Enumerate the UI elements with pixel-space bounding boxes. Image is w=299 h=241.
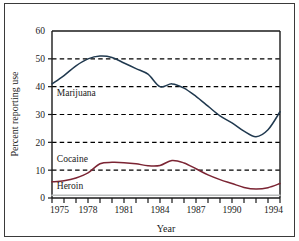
y-tick-label-20: 20 (36, 138, 46, 148)
series-inline-labels: MarijuanaCocaineHeroin (57, 88, 97, 191)
series-label-heroin: Heroin (57, 181, 84, 191)
x-axis-title: Year (157, 223, 176, 234)
series-label-cocaine: Cocaine (57, 154, 88, 164)
x-tick-label-1987: 1987 (187, 205, 206, 215)
x-tick-label-1978: 1978 (79, 205, 98, 215)
series-label-marijuana: Marijuana (57, 88, 97, 98)
y-tick-label-50: 50 (36, 54, 46, 64)
figure-container: 0102030405060 19751978198119841987199019… (0, 0, 299, 241)
x-axis-tick-labels: 1975197819811984198719901994 (50, 205, 283, 215)
y-tick-label-40: 40 (36, 82, 46, 92)
y-tick-label-0: 0 (40, 193, 45, 203)
y-tick-label-30: 30 (36, 110, 46, 120)
series-line-cocaine (52, 160, 280, 189)
x-tick-label-1984: 1984 (151, 205, 170, 215)
data-series-group (52, 56, 280, 195)
x-tick-label-1975: 1975 (50, 205, 69, 215)
y-axis-title: Percent reporting use (9, 71, 20, 157)
y-axis-tick-labels: 0102030405060 (36, 26, 53, 203)
x-tick-label-1981: 1981 (115, 205, 134, 215)
line-chart: 0102030405060 19751978198119841987199019… (0, 0, 299, 241)
y-tick-label-10: 10 (36, 166, 46, 176)
x-tick-label-1990: 1990 (223, 205, 242, 215)
x-axis-ticks-group (52, 198, 280, 203)
x-tick-label-1994: 1994 (264, 205, 283, 215)
y-tick-label-60: 60 (36, 26, 46, 36)
